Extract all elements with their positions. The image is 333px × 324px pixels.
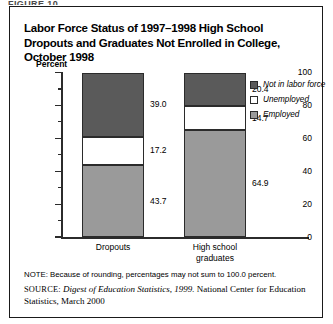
bar-high-school-graduates[interactable] bbox=[184, 73, 246, 238]
note-text: NOTE: Because of rounding, percentages m… bbox=[24, 269, 308, 280]
bar-value-label: 39.0 bbox=[150, 100, 167, 109]
y-tick-minor-10 bbox=[58, 220, 62, 221]
bar-value-label: 43.7 bbox=[150, 197, 167, 206]
y-tick-label-100: 100 bbox=[286, 68, 312, 77]
bar-segment-employed[interactable] bbox=[82, 165, 144, 237]
legend-item-not-in-labor-force[interactable]: Not in labor force bbox=[250, 78, 322, 91]
figure-title: Labor Force Status of 1997–1998 High Sch… bbox=[24, 21, 302, 65]
y-tick-label-0: 0 bbox=[286, 233, 312, 242]
y-tick-minor-50 bbox=[58, 154, 62, 155]
y-tick-label-20: 20 bbox=[286, 200, 312, 209]
y-axis-line bbox=[61, 72, 63, 238]
x-category-label-line: graduates bbox=[167, 253, 263, 264]
x-axis-line bbox=[61, 237, 309, 239]
bar-segment-unemployed[interactable] bbox=[184, 106, 246, 130]
legend-item-unemployed[interactable]: Unemployed bbox=[250, 93, 322, 106]
legend-swatch-unemployed bbox=[250, 96, 258, 104]
legend-label-employed: Employed bbox=[263, 110, 299, 119]
bar-segment-not-in-labor-force[interactable] bbox=[184, 73, 246, 107]
bar-segment-unemployed[interactable] bbox=[82, 137, 144, 165]
x-category-label-high-school-graduates: High schoolgraduates bbox=[167, 242, 263, 263]
y-axis-title: Percent bbox=[36, 59, 67, 69]
bar-value-label: 17.2 bbox=[150, 146, 167, 155]
y-tick-label-40: 40 bbox=[286, 167, 312, 176]
legend-label-not-in-labor-force: Not in labor force bbox=[263, 80, 325, 89]
legend-label-unemployed: Unemployed bbox=[263, 95, 309, 104]
chart-legend: Not in labor forceUnemployedEmployed bbox=[250, 78, 322, 123]
legend-swatch-employed bbox=[250, 111, 258, 119]
source-prefix: SOURCE: bbox=[24, 285, 61, 294]
y-tick-major-20 bbox=[55, 204, 61, 205]
y-tick-minor-30 bbox=[58, 187, 62, 188]
source-title: Digest of Education Statistics, 1999. bbox=[63, 284, 195, 294]
bar-segment-employed[interactable] bbox=[184, 130, 246, 237]
x-category-label-dropouts: Dropouts bbox=[65, 242, 161, 253]
bar-dropouts[interactable] bbox=[82, 73, 144, 238]
y-tick-major-80 bbox=[55, 105, 61, 106]
x-category-label-line: Dropouts bbox=[65, 242, 161, 253]
figure-notes: NOTE: Because of rounding, percentages m… bbox=[24, 269, 308, 307]
legend-item-employed[interactable]: Employed bbox=[250, 108, 322, 121]
y-tick-major-40 bbox=[55, 171, 61, 172]
x-category-label-line: High school bbox=[167, 242, 263, 253]
bar-segment-not-in-labor-force[interactable] bbox=[82, 73, 144, 137]
figure-panel: Labor Force Status of 1997–1998 High Sch… bbox=[9, 6, 323, 318]
y-tick-major-60 bbox=[55, 138, 61, 139]
figure-caption-sliver: FIGURE 10 bbox=[8, 0, 88, 5]
y-tick-minor-90 bbox=[58, 88, 62, 89]
y-tick-major-100 bbox=[55, 72, 61, 73]
bar-value-label: 64.9 bbox=[252, 179, 269, 188]
y-tick-minor-70 bbox=[58, 121, 62, 122]
y-tick-major-0 bbox=[55, 236, 61, 237]
legend-swatch-not-in-labor-force bbox=[250, 81, 258, 89]
source-text: SOURCE: Digest of Education Statistics, … bbox=[24, 284, 308, 307]
y-tick-label-60: 60 bbox=[286, 134, 312, 143]
